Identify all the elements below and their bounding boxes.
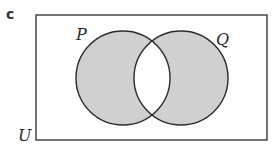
set-p-label: P bbox=[75, 25, 87, 44]
universal-set-label: U bbox=[18, 126, 32, 145]
venn-diagram: c P Q U bbox=[0, 0, 277, 156]
set-q-label: Q bbox=[216, 30, 229, 49]
part-label: c bbox=[6, 6, 14, 22]
